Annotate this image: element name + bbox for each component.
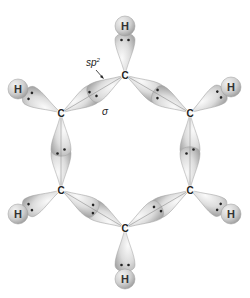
electron-dot bbox=[127, 264, 130, 267]
hydrogen-atom: H bbox=[115, 269, 135, 289]
bond-axis bbox=[61, 75, 125, 113]
electron-dot bbox=[63, 148, 66, 151]
cc-sigma-bond bbox=[56, 66, 130, 121]
electron-dot bbox=[185, 152, 188, 155]
hydrogen-label: H bbox=[14, 83, 22, 95]
carbon-label: C bbox=[57, 108, 64, 119]
electron-dot bbox=[192, 148, 195, 151]
carbon-label: C bbox=[121, 223, 128, 234]
hydrogen-atom: H bbox=[221, 204, 241, 224]
ch-sigma-bond bbox=[115, 228, 135, 272]
bond-axis bbox=[125, 75, 190, 113]
carbon-label: C bbox=[121, 70, 128, 81]
carbon-label: C bbox=[186, 108, 193, 119]
carbon-atom: C bbox=[186, 108, 195, 119]
hydrogen-atom: H bbox=[8, 204, 28, 224]
hydrogen-label: H bbox=[14, 208, 22, 220]
cc-sigma-bond bbox=[120, 66, 195, 121]
cc-sigma-bond bbox=[56, 181, 130, 236]
cc-sigma-bond bbox=[180, 113, 200, 190]
electron-dot bbox=[127, 39, 130, 42]
hydrogen-atom: H bbox=[115, 16, 135, 36]
electron-dot bbox=[56, 152, 59, 155]
carbon-label: C bbox=[186, 185, 193, 196]
hydrogen-label: H bbox=[121, 273, 129, 285]
carbon-atoms: CCCCCC bbox=[57, 70, 195, 234]
cc-sigma-bond bbox=[120, 181, 195, 236]
sp2-lobe bbox=[115, 228, 135, 272]
hydrogen-label: H bbox=[121, 20, 129, 32]
electron-dot bbox=[120, 264, 123, 267]
hydrogen-atom: H bbox=[8, 79, 28, 99]
carbon-atom: C bbox=[186, 185, 195, 196]
hydrogen-label: H bbox=[227, 81, 235, 93]
bond-axis bbox=[61, 190, 125, 228]
benzene-orbital-diagram: HHHHHH CCCCCC sp2 σ bbox=[0, 0, 250, 298]
carbon-atom: C bbox=[121, 223, 130, 234]
carbon-atom: C bbox=[57, 108, 66, 119]
bond-axis bbox=[125, 190, 190, 228]
carbon-label: C bbox=[57, 185, 64, 196]
hydrogen-atom: H bbox=[221, 77, 241, 97]
carbon-carbon-sigma-bonds bbox=[51, 66, 200, 236]
hydrogen-label: H bbox=[227, 208, 235, 220]
sp2-label: sp2 bbox=[86, 57, 101, 68]
carbon-atom: C bbox=[121, 70, 130, 81]
cc-sigma-bond bbox=[51, 113, 71, 190]
sigma-label: σ bbox=[102, 106, 109, 117]
carbon-atom: C bbox=[57, 185, 66, 196]
electron-dot bbox=[120, 39, 123, 42]
